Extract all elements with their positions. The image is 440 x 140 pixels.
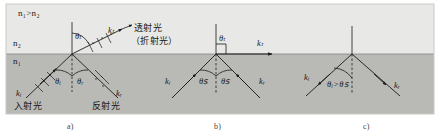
optics-refraction-figure: n₁>n₂ n₂ n₁ θₜ θᵢ θᵣ kᵢ kₜ kᵣ 透射光 （折射光） …: [0, 0, 440, 140]
panel-b-k-r-label: kᵣ: [259, 76, 265, 86]
panel-a-k-r-label: kᵣ: [116, 88, 122, 98]
panel-c-k-i-label: kᵢ: [304, 72, 310, 82]
panel-a-k-t-label: kₜ: [108, 25, 115, 35]
panel-a-theta-t-label: θₜ: [75, 31, 83, 41]
panel-b-theta-c-right-label: θꜱ: [221, 76, 230, 86]
panel-b-k-i-label: kᵢ: [165, 76, 171, 86]
panel-b-theta-t-label: θₜ: [219, 33, 227, 43]
panel-a-incident-light-label: 入射光: [14, 99, 42, 112]
panel-a-refracted-light-label: （折射光）: [131, 34, 178, 47]
panel-b-theta-c-left-label: θꜱ: [199, 76, 208, 86]
panel-c-caption: c): [363, 122, 370, 131]
panel-b-caption: b): [214, 122, 221, 131]
panel-a-medium-upper-label: n₂: [13, 38, 21, 48]
panel-a-transmitted-light-label: 透射光: [134, 21, 162, 34]
panel-a-theta-r-label: θᵣ: [77, 76, 84, 86]
panel-a-theta-i-label: θᵢ: [55, 76, 61, 86]
panel-b-k-t-label: kₜ: [257, 38, 264, 48]
lower-medium-region: [6, 54, 434, 114]
panel-a-reflected-light-label: 反射光: [92, 99, 120, 112]
figure-canvas: [0, 0, 440, 140]
panel-c-theta-condition-label: θᵢ>θꜱ: [327, 79, 348, 89]
upper-medium-region: [6, 4, 434, 54]
panel-c-k-r-label: kᵣ: [394, 80, 400, 90]
panel-a-k-i-label: kᵢ: [16, 88, 22, 98]
panel-a-medium-lower-label: n₁: [13, 56, 21, 66]
media-backgrounds: [6, 4, 434, 114]
panel-a-condition-label: n₁>n₂: [18, 8, 40, 18]
panel-a-caption: a): [67, 122, 74, 131]
